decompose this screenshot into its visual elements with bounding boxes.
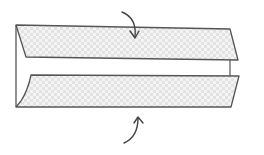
fold-diagram: [0, 0, 264, 155]
arrow-up-icon: [124, 117, 143, 143]
bottom-fold-strip: [16, 75, 239, 107]
top-fold-strip: [16, 25, 238, 60]
fold-diagram-svg: [0, 0, 264, 155]
